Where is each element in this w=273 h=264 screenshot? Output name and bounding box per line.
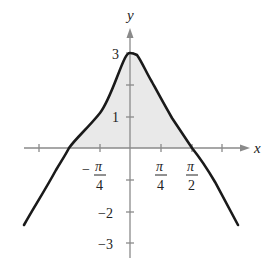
y-tick-3: 3 bbox=[112, 47, 119, 62]
y-tick-1: 1 bbox=[112, 110, 119, 125]
y-axis-label: y bbox=[125, 7, 134, 23]
graph: y x 3 1 −2 −3 − π 4 π 4 π 2 bbox=[0, 0, 273, 264]
svg-text:4: 4 bbox=[157, 178, 164, 193]
y-tick-neg3: −3 bbox=[98, 237, 113, 252]
x-tick-pi-over-2: π 2 bbox=[186, 159, 198, 193]
x-axis-label: x bbox=[253, 140, 261, 156]
svg-text:4: 4 bbox=[96, 178, 103, 193]
y-tick-neg2: −2 bbox=[98, 206, 113, 221]
x-tick-pi-over-4: π 4 bbox=[155, 159, 167, 193]
y-axis-arrow-icon bbox=[127, 28, 134, 38]
svg-text:π: π bbox=[95, 159, 103, 174]
x-axis-arrow-icon bbox=[240, 145, 250, 152]
x-tick-neg-pi-over-4: − π 4 bbox=[82, 159, 106, 193]
svg-text:2: 2 bbox=[188, 178, 195, 193]
svg-text:π: π bbox=[156, 159, 164, 174]
svg-text:−: − bbox=[82, 162, 90, 177]
svg-text:π: π bbox=[187, 159, 195, 174]
